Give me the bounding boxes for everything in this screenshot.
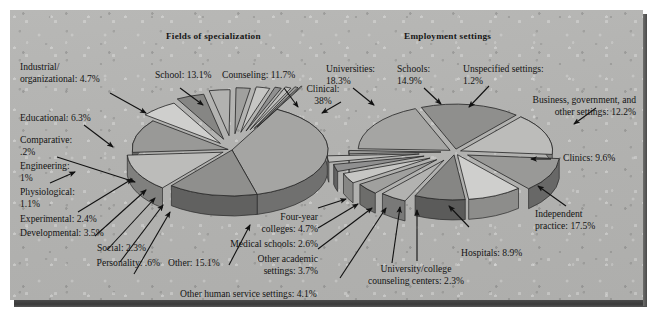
label-university-college-counseling-centers: University/college counseling centers: 2… bbox=[340, 263, 492, 286]
label-schools: Schools: 14.9% bbox=[397, 63, 430, 86]
label-clinical: Clinical: 38% bbox=[297, 83, 349, 106]
label-comparative: Comparative: .2% bbox=[20, 134, 72, 157]
label-independent-practice: Independent practice: 17.5% bbox=[535, 208, 595, 231]
label-school: School: 13.1% bbox=[155, 69, 212, 81]
chart-title-employment-settings: Employment settings bbox=[404, 31, 491, 41]
pie-employment-settings bbox=[327, 104, 559, 221]
label-social: Social: 2.3% bbox=[20, 242, 146, 254]
label-business-government: Business, government, and other settings… bbox=[460, 94, 636, 117]
label-industrial-organizational: Industrial/ organizational: 4.7% bbox=[20, 61, 100, 84]
label-engineering: Engineering: 1% bbox=[20, 160, 70, 183]
label-unspecified-settings: Unspecified settings: 1.2% bbox=[463, 63, 544, 86]
label-personality: Personality: .6% bbox=[20, 257, 160, 269]
label-medical-schools: Medical schools: 2.6% bbox=[200, 238, 318, 250]
label-hospitals: Hospitals: 8.9% bbox=[461, 247, 522, 259]
figure-root: Fields of specialization Employment sett… bbox=[0, 0, 651, 330]
chart-title-fields-of-specialization: Fields of specialization bbox=[166, 31, 261, 41]
pie-charts-svg bbox=[0, 0, 651, 330]
label-clinics: Clinics: 9.6% bbox=[563, 152, 615, 164]
label-physiological: Physiological: 1.1% bbox=[20, 186, 75, 209]
label-experimental: Experimental: 2.4% bbox=[20, 213, 97, 225]
label-four-year-colleges: Four-year colleges: 4.7% bbox=[200, 211, 318, 234]
label-universities: Universities: 18.3% bbox=[326, 63, 375, 86]
label-educational: Educational: 6.3% bbox=[20, 112, 91, 124]
label-other-human-service-settings: Other human service settings: 4.1% bbox=[180, 288, 317, 300]
label-developmental: Developmental: 3.5% bbox=[20, 227, 104, 239]
label-other-academic-settings: Other academic settings: 3.7% bbox=[200, 253, 318, 276]
label-counseling: Counseling: 11.7% bbox=[222, 69, 295, 81]
